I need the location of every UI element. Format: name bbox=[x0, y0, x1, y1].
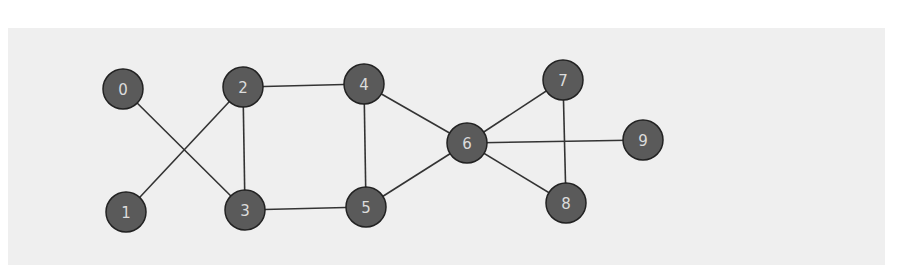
edge-1-2 bbox=[126, 87, 243, 212]
node-label: 2 bbox=[238, 79, 248, 97]
edge-6-9 bbox=[467, 140, 643, 143]
graph-node-6: 6 bbox=[447, 123, 487, 163]
node-label: 6 bbox=[462, 135, 472, 153]
graph-node-2: 2 bbox=[223, 67, 263, 107]
node-label: 4 bbox=[359, 76, 369, 94]
node-label: 7 bbox=[558, 72, 568, 90]
graph-node-7: 7 bbox=[543, 60, 583, 100]
node-label: 3 bbox=[240, 202, 250, 220]
node-label: 1 bbox=[121, 204, 131, 222]
graph-node-9: 9 bbox=[623, 120, 663, 160]
node-label: 9 bbox=[638, 132, 648, 150]
graph-node-3: 3 bbox=[225, 190, 265, 230]
graph-node-5: 5 bbox=[346, 187, 386, 227]
node-label: 0 bbox=[118, 81, 128, 99]
graph-node-0: 0 bbox=[103, 69, 143, 109]
node-label: 8 bbox=[561, 195, 571, 213]
graph-diagram: 0123456789 bbox=[0, 0, 910, 273]
graph-node-1: 1 bbox=[106, 192, 146, 232]
graph-node-8: 8 bbox=[546, 183, 586, 223]
graph-node-4: 4 bbox=[344, 64, 384, 104]
node-label: 5 bbox=[361, 199, 371, 217]
